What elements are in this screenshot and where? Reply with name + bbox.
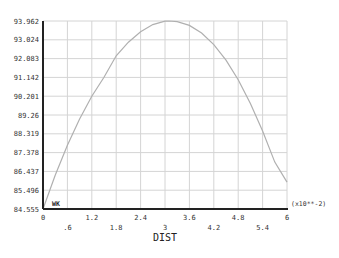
x-tick-label: 3.6 (183, 214, 196, 222)
y-tick-label: 88.319 (14, 130, 39, 138)
x-axis-ticks: 01.22.43.64.86.61.834.25.4 (41, 214, 289, 232)
x-tick-label: .6 (63, 224, 71, 232)
y-axis-ticks: 93.96293.02492.08391.14290.20189.2688.31… (14, 18, 39, 214)
y-tick-label: 89.26 (18, 112, 39, 120)
x-tick-label: 0 (41, 214, 45, 222)
x-multiplier-label: (x10**-2) (291, 200, 326, 208)
y-tick-label: 92.083 (14, 55, 39, 63)
y-tick-label: 84.555 (14, 206, 39, 214)
x-tick-label: 6 (285, 214, 289, 222)
x-tick-label: 4.2 (207, 224, 220, 232)
x-axis-label: DIST (153, 232, 177, 243)
y-tick-label: 93.962 (14, 18, 39, 26)
y-tick-label: 85.496 (14, 187, 39, 195)
x-tick-label: 5.4 (256, 224, 269, 232)
y-tick-label: 91.142 (14, 74, 39, 82)
grid-lines (43, 21, 287, 209)
y-tick-label: 93.024 (14, 36, 39, 44)
x-tick-label: 2.4 (134, 214, 147, 222)
x-tick-label: 3 (163, 224, 167, 232)
x-tick-label: 4.8 (232, 214, 245, 222)
y-tick-label: 87.378 (14, 149, 39, 157)
legend-label: WK (52, 200, 60, 208)
line-chart: 93.96293.02492.08391.14290.20189.2688.31… (0, 0, 339, 258)
y-tick-label: 90.201 (14, 93, 39, 101)
y-tick-label: 86.437 (14, 168, 39, 176)
x-tick-label: 1.8 (110, 224, 123, 232)
x-tick-label: 1.2 (85, 214, 98, 222)
